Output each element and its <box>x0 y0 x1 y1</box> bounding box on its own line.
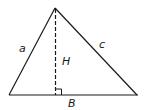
side-a-line <box>9 8 55 95</box>
right-angle-marker <box>56 89 62 95</box>
label-a: a <box>19 42 26 55</box>
label-h: H <box>62 55 70 68</box>
label-b: B <box>68 97 76 110</box>
triangle-diagram: a c H B <box>0 0 148 110</box>
label-c: c <box>99 38 105 51</box>
side-c-line <box>55 8 137 95</box>
